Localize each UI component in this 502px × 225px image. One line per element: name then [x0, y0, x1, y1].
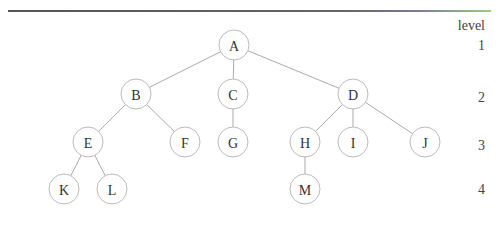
node-label: A [229, 39, 240, 54]
level-labels: level 1 2 3 4 [458, 18, 485, 197]
node-label: J [422, 136, 428, 151]
node-c: C [218, 79, 248, 109]
level-header: level [458, 18, 485, 33]
level-2-label: 2 [478, 90, 485, 105]
node-h: H [290, 127, 320, 157]
node-label: I [351, 136, 356, 151]
edges [64, 45, 425, 189]
level-4-label: 4 [478, 182, 485, 197]
node-label: D [348, 88, 358, 103]
node-label: H [300, 136, 310, 151]
node-label: L [108, 183, 117, 198]
tree-diagram: ABCDEFGHIJKLM level 1 2 3 4 [0, 0, 502, 225]
node-label: M [299, 183, 312, 198]
node-b: B [121, 79, 151, 109]
node-f: F [170, 127, 200, 157]
node-l: L [97, 174, 127, 204]
node-label: K [59, 183, 69, 198]
node-i: I [338, 127, 368, 157]
node-d: D [338, 79, 368, 109]
nodes: ABCDEFGHIJKLM [49, 30, 440, 204]
node-label: B [131, 88, 140, 103]
node-e: E [73, 127, 103, 157]
edge-a-b [136, 45, 234, 94]
node-label: E [84, 136, 93, 151]
level-3-label: 3 [478, 138, 485, 153]
node-a: A [219, 30, 249, 60]
node-label: G [228, 136, 238, 151]
node-g: G [218, 127, 248, 157]
node-j: J [410, 127, 440, 157]
node-m: M [290, 174, 320, 204]
node-label: C [228, 88, 237, 103]
edge-a-d [234, 45, 353, 94]
level-1-label: 1 [478, 38, 485, 53]
node-label: F [181, 136, 189, 151]
node-k: K [49, 174, 79, 204]
